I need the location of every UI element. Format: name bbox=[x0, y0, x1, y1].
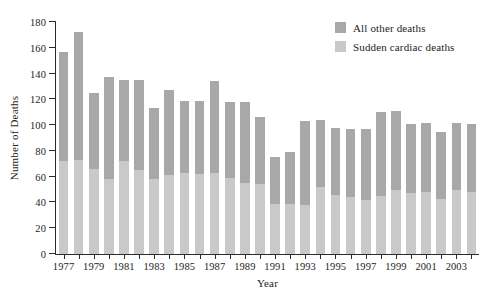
x-tick bbox=[109, 254, 110, 259]
x-tick-label: 1997 bbox=[355, 261, 376, 272]
bar-segment-all-other-deaths bbox=[300, 121, 310, 205]
bar-segment-all-other-deaths bbox=[164, 90, 174, 175]
x-tick-label: 2003 bbox=[446, 261, 467, 272]
x-tick bbox=[94, 254, 95, 259]
bar-stack bbox=[421, 123, 431, 254]
bar-segment-all-other-deaths bbox=[59, 52, 69, 162]
bar-segment-all-other-deaths bbox=[74, 32, 84, 160]
y-tick: 80 bbox=[49, 150, 56, 151]
bar-segment-sudden-cardiac-deaths bbox=[180, 173, 190, 254]
bar-segment-sudden-cardiac-deaths bbox=[164, 175, 174, 254]
bar-segment-sudden-cardiac-deaths bbox=[391, 190, 401, 254]
bar-segment-sudden-cardiac-deaths bbox=[316, 187, 326, 254]
y-tick-label: 20 bbox=[35, 223, 46, 234]
bar-segment-sudden-cardiac-deaths bbox=[421, 192, 431, 254]
x-tick bbox=[290, 254, 291, 259]
bar-segment-sudden-cardiac-deaths bbox=[406, 193, 416, 254]
y-tick: 20 bbox=[49, 227, 56, 228]
bar-segment-all-other-deaths bbox=[149, 108, 159, 179]
x-tick bbox=[169, 254, 170, 259]
bar-segment-all-other-deaths bbox=[421, 123, 431, 193]
y-tick-label: 100 bbox=[30, 120, 46, 131]
x-tick bbox=[275, 254, 276, 259]
bar-stack bbox=[285, 152, 295, 254]
bar-stack bbox=[195, 101, 205, 254]
y-tick-label: 40 bbox=[35, 197, 46, 208]
y-tick-label: 120 bbox=[30, 94, 46, 105]
bar-segment-sudden-cardiac-deaths bbox=[331, 195, 341, 254]
legend-label: All other deaths bbox=[353, 22, 426, 34]
x-tick bbox=[411, 254, 412, 259]
x-tick bbox=[456, 254, 457, 259]
legend-item: Sudden cardiac deaths bbox=[335, 38, 455, 55]
bar-segment-all-other-deaths bbox=[376, 112, 386, 196]
bar-segment-sudden-cardiac-deaths bbox=[436, 199, 446, 254]
bar-segment-all-other-deaths bbox=[195, 101, 205, 174]
x-tick bbox=[184, 254, 185, 259]
y-tick: 120 bbox=[49, 98, 56, 99]
bar-stack bbox=[104, 77, 114, 254]
legend-swatch-icon bbox=[335, 22, 346, 33]
x-tick-label: 1985 bbox=[174, 261, 195, 272]
bar-segment-all-other-deaths bbox=[119, 80, 129, 161]
x-tick bbox=[215, 254, 216, 259]
x-tick bbox=[139, 254, 140, 259]
x-axis-title: Year bbox=[257, 277, 278, 289]
chart-figure: Number of Deaths 02040608010012014016018… bbox=[0, 0, 497, 295]
bar-segment-all-other-deaths bbox=[406, 124, 416, 194]
bar-segment-all-other-deaths bbox=[240, 102, 250, 183]
bar-segment-all-other-deaths bbox=[225, 102, 235, 178]
bar-stack bbox=[406, 124, 416, 254]
x-tick bbox=[381, 254, 382, 259]
bar-segment-sudden-cardiac-deaths bbox=[467, 192, 477, 254]
bar-stack bbox=[270, 157, 280, 254]
bar-stack bbox=[376, 112, 386, 254]
x-tick-label: 1987 bbox=[204, 261, 225, 272]
chart-legend: All other deathsSudden cardiac deaths bbox=[335, 19, 455, 57]
x-tick bbox=[351, 254, 352, 259]
bar-segment-all-other-deaths bbox=[180, 101, 190, 173]
x-tick-label: 1989 bbox=[234, 261, 255, 272]
x-tick bbox=[366, 254, 367, 259]
bar-segment-all-other-deaths bbox=[134, 80, 144, 170]
x-tick-label: 1999 bbox=[385, 261, 406, 272]
x-tick-label: 1983 bbox=[143, 261, 164, 272]
y-tick: 0 bbox=[49, 253, 56, 254]
bar-stack bbox=[436, 132, 446, 254]
bar-stack bbox=[316, 120, 326, 254]
bar-stack bbox=[346, 129, 356, 254]
x-tick-label: 2001 bbox=[415, 261, 436, 272]
x-tick bbox=[79, 254, 80, 259]
bar-stack bbox=[134, 80, 144, 254]
bar-stack bbox=[240, 102, 250, 254]
bar-segment-sudden-cardiac-deaths bbox=[240, 183, 250, 254]
x-tick bbox=[124, 254, 125, 259]
y-tick-label: 0 bbox=[41, 249, 46, 260]
bar-segment-all-other-deaths bbox=[436, 132, 446, 199]
bar-stack bbox=[149, 108, 159, 254]
legend-label: Sudden cardiac deaths bbox=[353, 41, 455, 53]
bar-segment-all-other-deaths bbox=[270, 157, 280, 203]
bar-stack bbox=[467, 124, 477, 254]
bar-segment-sudden-cardiac-deaths bbox=[89, 169, 99, 254]
x-tick bbox=[396, 254, 397, 259]
bar-segment-sudden-cardiac-deaths bbox=[119, 161, 129, 254]
x-tick-label: 1993 bbox=[295, 261, 316, 272]
x-tick bbox=[154, 254, 155, 259]
bar-stack bbox=[180, 101, 190, 254]
bar-segment-all-other-deaths bbox=[361, 129, 371, 200]
x-tick-label: 1991 bbox=[264, 261, 285, 272]
x-tick bbox=[260, 254, 261, 259]
y-tick-label: 140 bbox=[30, 68, 46, 79]
bar-stack bbox=[225, 102, 235, 254]
x-tick bbox=[64, 254, 65, 259]
x-tick bbox=[245, 254, 246, 259]
y-tick-label: 160 bbox=[30, 42, 46, 53]
bar-segment-sudden-cardiac-deaths bbox=[134, 170, 144, 254]
bar-stack bbox=[89, 93, 99, 254]
bar-segment-sudden-cardiac-deaths bbox=[149, 179, 159, 254]
bar-segment-all-other-deaths bbox=[316, 120, 326, 187]
y-axis-title: Number of Deaths bbox=[8, 38, 20, 238]
y-tick: 100 bbox=[49, 124, 56, 125]
bar-segment-all-other-deaths bbox=[452, 123, 462, 190]
